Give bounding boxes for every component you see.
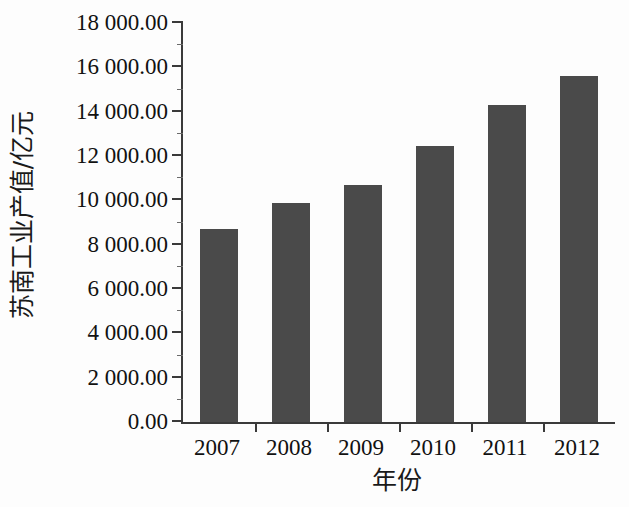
y-axis-tick-label: 10 000.00 [76, 188, 168, 211]
y-axis-major-tick [172, 420, 183, 422]
x-axis-tick-label-2012: 2012 [541, 434, 613, 462]
bar-2008 [272, 203, 310, 422]
x-axis-tick-labels: 200720082009201020112012 [181, 434, 613, 466]
bar-2011 [488, 105, 526, 422]
x-axis-tick [399, 422, 401, 432]
bar-2009 [344, 185, 382, 422]
x-axis-tick [327, 422, 329, 432]
y-axis-major-tick [172, 198, 183, 200]
y-axis-tick-label: 14 000.00 [76, 100, 168, 123]
y-axis-major-tick [172, 287, 183, 289]
y-axis-tick-label: 16 000.00 [76, 55, 168, 78]
y-axis-tick-labels: 0.002 000.004 000.006 000.008 000.0010 0… [34, 0, 174, 440]
y-axis-tick-label: 0.00 [128, 410, 168, 433]
bar-2007 [200, 229, 238, 422]
y-axis-major-tick [172, 21, 183, 23]
plot-area [181, 23, 615, 424]
bar-2012 [560, 76, 598, 422]
x-axis-tick-label-2009: 2009 [325, 434, 397, 462]
x-axis-tick-label-2010: 2010 [397, 434, 469, 462]
y-axis-tick-label: 4 000.00 [88, 321, 169, 344]
x-axis-tick-label-2007: 2007 [181, 434, 253, 462]
y-axis-tick-label: 18 000.00 [76, 11, 168, 34]
y-axis-title-text: 苏南工业产值/亿元 [2, 111, 38, 319]
y-axis-major-tick [172, 331, 183, 333]
y-axis-tick-label: 12 000.00 [76, 144, 168, 167]
y-axis-tick-label: 2 000.00 [88, 366, 169, 389]
x-axis-title: 年份 [181, 466, 613, 496]
x-axis-tick [543, 422, 545, 432]
bars-layer [183, 23, 615, 422]
x-axis-tick [255, 422, 257, 432]
x-axis-tick [471, 422, 473, 432]
bar-chart-figure: 苏南工业产值/亿元 0.002 000.004 000.006 000.008 … [0, 0, 629, 507]
y-axis-tick-label: 8 000.00 [88, 233, 169, 256]
y-axis-tick-label: 6 000.00 [88, 277, 169, 300]
y-axis-major-tick [172, 110, 183, 112]
y-axis-major-tick [172, 154, 183, 156]
y-axis-major-tick [172, 376, 183, 378]
y-axis-major-tick [172, 65, 183, 67]
bar-2010 [416, 146, 454, 422]
x-axis-title-text: 年份 [372, 466, 422, 495]
y-axis-major-tick [172, 243, 183, 245]
x-axis-tick-label-2008: 2008 [253, 434, 325, 462]
x-axis-tick-label-2011: 2011 [469, 434, 541, 462]
